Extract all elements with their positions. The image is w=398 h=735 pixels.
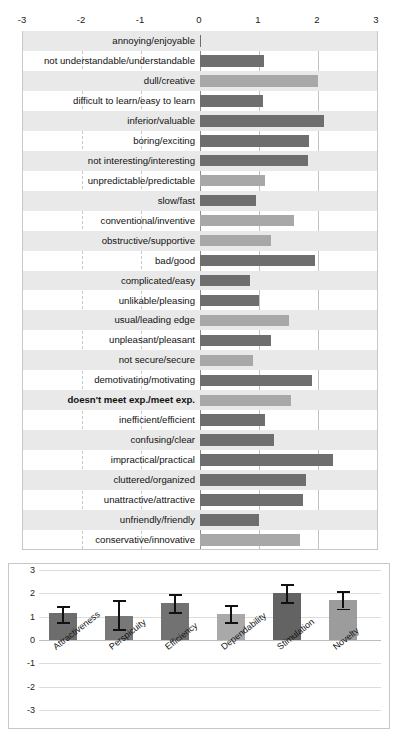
item-label: confusing/clear — [130, 430, 195, 450]
item-label: unpleasant/pleasant — [109, 330, 195, 350]
item-row: usual/leading edge — [23, 310, 377, 330]
scale-gridline-2 — [39, 593, 381, 594]
error-cap-lower — [57, 622, 70, 624]
item-row: demotivating/motivating — [23, 370, 377, 390]
item-bar — [200, 235, 271, 247]
item-bar — [200, 255, 315, 267]
error-cap-lower — [337, 609, 350, 611]
scale-y-tick: -2 — [13, 682, 35, 692]
error-cap-lower — [281, 602, 294, 604]
item-means-chart: -3-2-10123 annoying/enjoyablenot underst… — [0, 0, 398, 556]
item-bar — [200, 275, 250, 287]
scale-gridline-neg2 — [39, 687, 381, 688]
scale-y-tick: -3 — [13, 705, 35, 715]
error-cap-lower — [169, 612, 182, 614]
error-bar — [174, 594, 176, 612]
item-bar — [200, 155, 308, 167]
item-row: dull/creative — [23, 71, 377, 91]
scale-chart-plot-area: 3210-1-2-3 AttractivenessPerspicuityEffi… — [9, 564, 389, 728]
item-row: bad/good — [23, 251, 377, 271]
item-label: annoying/enjoyable — [112, 31, 195, 51]
scale-y-tick: 1 — [13, 612, 35, 622]
item-bar — [200, 454, 333, 466]
item-row: unpredictable/predictable — [23, 171, 377, 191]
error-bar — [342, 591, 344, 608]
item-bar — [200, 115, 324, 127]
error-bar — [230, 605, 232, 622]
error-cap-upper — [337, 591, 350, 593]
x-tick-1: 1 — [255, 14, 260, 26]
item-row: inferior/valuable — [23, 111, 377, 131]
item-label: conservative/innovative — [95, 530, 195, 550]
item-label: inferior/valuable — [127, 111, 195, 131]
item-row: unattractive/attractive — [23, 490, 377, 510]
item-row: annoying/enjoyable — [23, 31, 377, 51]
item-label: dull/creative — [144, 71, 195, 91]
x-tick-neg3: -3 — [18, 14, 26, 26]
item-row: inefficient/efficient — [23, 410, 377, 430]
scale-gridline-3 — [39, 570, 381, 571]
error-cap-lower — [225, 622, 238, 624]
item-label: unpredictable/predictable — [88, 171, 195, 191]
item-row: impractical/practical — [23, 450, 377, 470]
scale-gridline-neg3 — [39, 710, 381, 711]
item-row: cluttered/organized — [23, 470, 377, 490]
item-row: conventional/inventive — [23, 211, 377, 231]
item-bar — [200, 375, 312, 387]
item-bar — [200, 215, 294, 227]
item-label: not interesting/interesting — [88, 151, 195, 171]
item-label: slow/fast — [158, 191, 195, 211]
item-label: cluttered/organized — [113, 470, 195, 490]
item-bar — [200, 514, 259, 526]
item-row: obstructive/supportive — [23, 231, 377, 251]
scale-y-tick: 0 — [13, 635, 35, 645]
item-bar — [200, 55, 264, 67]
item-row: not secure/secure — [23, 350, 377, 370]
item-label: conventional/inventive — [101, 211, 195, 231]
error-cap-upper — [225, 605, 238, 607]
item-label: bad/good — [155, 251, 195, 271]
item-bar — [200, 135, 309, 147]
x-tick-3: 3 — [373, 14, 378, 26]
item-bar — [200, 355, 253, 367]
item-label: unattractive/attractive — [104, 490, 195, 510]
item-row: boring/exciting — [23, 131, 377, 151]
item-label: inefficient/efficient — [119, 410, 195, 430]
item-label: difficult to learn/easy to learn — [73, 91, 195, 111]
item-bar — [200, 335, 271, 347]
item-row: conservative/innovative — [23, 530, 377, 550]
ueq-results-figure: -3-2-10123 annoying/enjoyablenot underst… — [0, 0, 398, 735]
item-row: complicated/easy — [23, 271, 377, 291]
item-bar — [200, 35, 201, 47]
error-cap-upper — [281, 584, 294, 586]
item-bar — [200, 315, 289, 327]
item-bar — [200, 534, 300, 546]
x-tick-neg1: -1 — [136, 14, 144, 26]
item-row: not understandable/understandable — [23, 51, 377, 71]
item-label: unlikable/pleasing — [119, 291, 195, 311]
item-row: difficult to learn/easy to learn — [23, 91, 377, 111]
item-row: confusing/clear — [23, 430, 377, 450]
x-tick-neg2: -2 — [77, 14, 85, 26]
item-row: not interesting/interesting — [23, 151, 377, 171]
error-cap-upper — [57, 606, 70, 608]
item-row: unlikable/pleasing — [23, 291, 377, 311]
item-label: usual/leading edge — [114, 310, 195, 330]
item-label: impractical/practical — [111, 450, 195, 470]
item-label: not secure/secure — [119, 350, 195, 370]
x-tick-0: 0 — [196, 14, 201, 26]
scale-means-chart: 3210-1-2-3 AttractivenessPerspicuityEffi… — [8, 563, 390, 729]
item-label: obstructive/supportive — [102, 231, 195, 251]
item-bar — [200, 414, 265, 426]
item-bar — [200, 474, 306, 486]
error-cap-upper — [113, 600, 126, 602]
item-label: boring/exciting — [133, 131, 195, 151]
error-bar — [286, 584, 288, 602]
x-tick-2: 2 — [314, 14, 319, 26]
scale-gridline-neg1 — [39, 663, 381, 664]
item-bar — [200, 434, 274, 446]
item-bar — [200, 395, 291, 407]
item-label: unfriendly/friendly — [120, 510, 195, 530]
scale-y-tick: 3 — [13, 565, 35, 575]
error-bar — [118, 600, 120, 629]
